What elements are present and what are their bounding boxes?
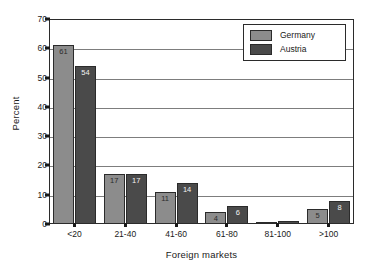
bar-austria-21-40: 17 (126, 174, 147, 224)
x-tick-mark (225, 223, 228, 227)
y-tick-label: 30 (21, 131, 47, 141)
bar-germany-<20: 61 (53, 45, 74, 224)
bar-value-label: 6 (228, 209, 247, 217)
y-tick-label: 70 (21, 14, 47, 24)
bar-value-label: 54 (76, 69, 95, 77)
bar-value-label: 4 (206, 215, 225, 223)
bar-value-label: 14 (178, 186, 197, 194)
x-tick-label: 41-60 (149, 229, 203, 239)
bar-austria-61-80: 6 (227, 206, 248, 224)
y-tick-label: 0 (21, 219, 47, 229)
x-tick-mark (276, 223, 279, 227)
bar-austria->100: 8 (329, 201, 350, 224)
y-tick-label: 20 (21, 160, 47, 170)
x-tick-mark (327, 223, 330, 227)
bar-group: 1114 (151, 19, 202, 224)
x-tick-mark (73, 223, 76, 227)
bar-value-label: 11 (156, 195, 175, 203)
x-tick-mark (175, 223, 178, 227)
x-tick-label: 21-40 (98, 229, 152, 239)
bar-chart: Percent 010203040506070 6154171711144658… (0, 0, 371, 273)
y-tick-label: 60 (21, 43, 47, 53)
bar-austria-81-100 (278, 221, 299, 224)
bar-germany-21-40: 17 (104, 174, 125, 224)
bar-germany-61-80: 4 (205, 212, 226, 224)
bar-group: 6154 (49, 19, 100, 224)
bar-value-label: 17 (127, 177, 146, 185)
x-axis-title: Foreign markets (49, 249, 354, 260)
legend-swatch-germany (250, 30, 272, 41)
bar-value-label: 8 (330, 204, 349, 212)
y-axis-title: Percent (10, 69, 21, 159)
x-tick-label: 61-80 (200, 229, 254, 239)
legend-label-austria: Austria (280, 44, 306, 54)
bar-germany->100: 5 (307, 209, 328, 224)
chart-legend: Germany Austria (243, 24, 346, 61)
x-tick-label: >100 (302, 229, 356, 239)
bar-germany-41-60: 11 (155, 192, 176, 224)
bar-austria-<20: 54 (75, 66, 96, 224)
x-tick-label: <20 (47, 229, 101, 239)
legend-item-germany: Germany (244, 28, 345, 42)
bar-value-label: 5 (308, 212, 327, 220)
legend-label-germany: Germany (280, 30, 315, 40)
bar-germany-81-100 (256, 222, 277, 224)
bar-austria-41-60: 14 (177, 183, 198, 224)
x-tick-mark (124, 223, 127, 227)
y-tick-label: 40 (21, 102, 47, 112)
bar-value-label: 17 (105, 177, 124, 185)
y-tick-label: 50 (21, 73, 47, 83)
x-tick-label: 81-100 (251, 229, 305, 239)
bar-group: 1717 (100, 19, 151, 224)
legend-item-austria: Austria (244, 42, 345, 56)
legend-swatch-austria (250, 44, 272, 55)
y-tick-label: 10 (21, 190, 47, 200)
bar-value-label: 61 (54, 48, 73, 56)
